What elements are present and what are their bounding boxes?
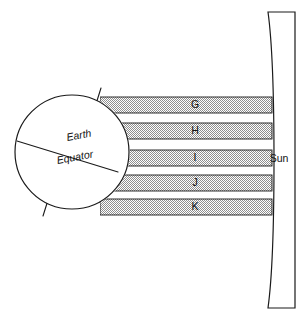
- sun-group: Sun: [268, 12, 295, 308]
- band-label-g: G: [191, 98, 199, 110]
- band-label-h: H: [191, 124, 199, 136]
- band-label-k: K: [191, 200, 198, 212]
- band-label-j: J: [192, 176, 197, 188]
- earth-sun-diagram: Sun Earth Equator G H I J K: [0, 0, 303, 318]
- diagram-canvas: Sun Earth Equator G H I J K: [0, 0, 303, 318]
- sun-label: Sun: [270, 152, 289, 164]
- beam-band-g: [100, 97, 272, 113]
- band-label-i: I: [194, 151, 197, 163]
- beam-band-k: [100, 199, 272, 215]
- beam-band-j: [100, 175, 272, 191]
